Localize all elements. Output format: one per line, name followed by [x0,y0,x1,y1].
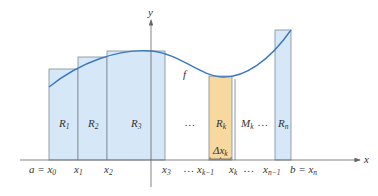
rectangle-rn [275,30,291,160]
tick-label-ellipsis-2: … [244,162,254,174]
mk-label: Mk [240,117,254,131]
tick-label-x2: x2 [103,163,113,177]
tick-label-ellipsis-1: … [184,162,194,174]
ellipsis-after-r3: … [185,116,195,128]
ellipsis-after-mk: … [258,116,268,128]
curve-label: f [183,68,188,80]
y-axis-label: y [147,6,153,18]
rectangle-r2 [78,57,107,160]
rectangles [49,30,291,160]
tick-label-xn-1: xn−1 [262,163,280,177]
tick-label-x3: x3 [161,163,171,177]
riemann-sum-diagram: y x f R1 R2 R3 … Rk Mk … Rn Δxk a = x0 x… [0,0,378,196]
tick-label-x0: a = x0 [29,163,56,177]
x-axis-label: x [363,153,369,165]
rectangle-r3 [107,51,165,160]
rectangle-r1 [49,69,78,160]
tick-label-xn: b = xn [290,163,317,177]
tick-label-xk: xk [228,163,238,177]
tick-labels: a = x0 x1 x2 x3 … xk−1 xk … xn−1 b = xn [29,162,317,177]
tick-label-x1: x1 [73,163,83,177]
tick-label-xk-1: xk−1 [196,163,214,177]
